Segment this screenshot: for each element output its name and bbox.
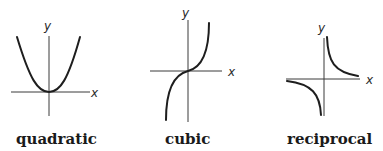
quadratic-y-label: y bbox=[43, 19, 52, 33]
reciprocal-x-label: x bbox=[365, 73, 374, 87]
cubic-graph: y x cubic bbox=[150, 6, 236, 148]
reciprocal-curve-positive bbox=[327, 37, 358, 76]
reciprocal-graph: y x reciprocal bbox=[286, 21, 374, 148]
cubic-caption: cubic bbox=[165, 130, 210, 148]
reciprocal-caption: reciprocal bbox=[287, 130, 373, 148]
function-graphs-diagram: y x quadratic y x cubic y x reciprocal bbox=[0, 0, 383, 151]
reciprocal-y-label: y bbox=[317, 21, 326, 35]
quadratic-x-label: x bbox=[90, 86, 99, 100]
cubic-y-label: y bbox=[181, 6, 190, 20]
cubic-x-label: x bbox=[227, 65, 236, 79]
reciprocal-curve-negative bbox=[287, 81, 321, 115]
quadratic-graph: y x quadratic bbox=[11, 19, 99, 148]
quadratic-caption: quadratic bbox=[16, 130, 97, 148]
